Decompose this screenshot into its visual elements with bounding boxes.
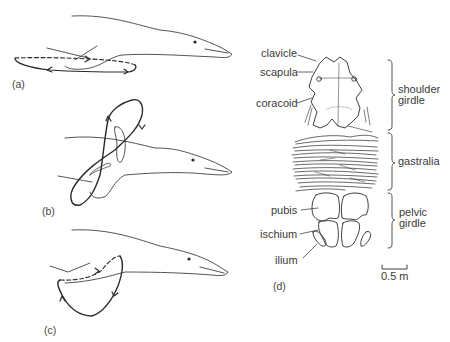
scale-bar [382, 265, 407, 269]
diagram-drawing [0, 0, 450, 342]
label-shoulder-girdle-2: girdle [398, 95, 425, 106]
gastralia-ribs [292, 135, 378, 191]
scale-bar-label: 0.5 m [381, 271, 409, 282]
panel-a-drawing [15, 16, 232, 74]
bracket-shoulder [388, 60, 395, 130]
label-scapula: scapula [260, 67, 298, 78]
region-brackets [388, 60, 395, 248]
ilium-right [361, 231, 371, 246]
panel-label-c: (c) [44, 325, 56, 336]
label-pubis: pubis [271, 205, 297, 216]
panel-label-b: (b) [42, 206, 55, 217]
panel-label-a: (a) [12, 79, 25, 90]
panel-d-skeleton [292, 55, 378, 258]
panel-c-drawing [50, 230, 228, 316]
neck-outline-c [65, 230, 228, 283]
shoulder-girdle-plate [309, 57, 362, 128]
label-clavicle: clavicle [261, 48, 297, 59]
panel-b-drawing [58, 100, 232, 206]
pubis-left [312, 193, 340, 221]
eye-a [193, 40, 196, 43]
ischium-left [319, 221, 339, 247]
ischium-right [342, 221, 360, 247]
figure: (a) (b) (c) (d) clavicle scapula coracoi… [0, 0, 450, 342]
label-coracoid: coracoid [256, 98, 298, 109]
label-gastralia: gastralia [398, 156, 440, 167]
label-pelvic-girdle-2: girdle [399, 218, 426, 229]
label-ischium: ischium [260, 229, 297, 240]
ilium-left [313, 231, 326, 246]
label-ilium: ilium [275, 255, 298, 266]
neck-outline-a [65, 16, 232, 70]
bracket-pelvic [388, 193, 395, 248]
eye-c [187, 257, 190, 260]
bracket-gastralia [388, 133, 395, 190]
panel-label-d: (d) [273, 281, 286, 292]
eye-b [191, 158, 194, 161]
pubis-right [341, 193, 368, 220]
